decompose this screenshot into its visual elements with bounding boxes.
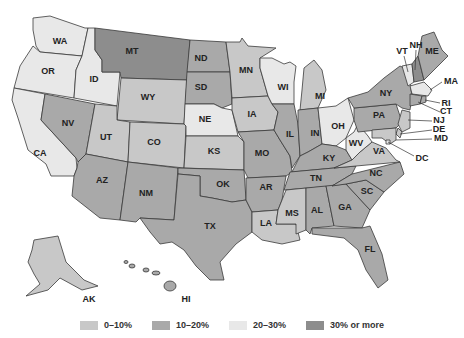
label-CO: CO — [147, 137, 161, 147]
label-IL: IL — [286, 129, 295, 139]
state-MD[interactable] — [372, 128, 396, 144]
label-NH: NH — [410, 40, 423, 50]
label-TX: TX — [204, 221, 216, 231]
legend-item-20-30: 20–30% — [229, 320, 286, 330]
state-AK[interactable] — [26, 236, 98, 296]
label-IN: IN — [311, 128, 320, 138]
legend-swatch-30-plus — [306, 321, 324, 330]
state-MT[interactable] — [95, 28, 190, 80]
label-KY: KY — [323, 153, 336, 163]
label-IA: IA — [248, 109, 258, 119]
label-SD: SD — [195, 82, 208, 92]
state-ND[interactable] — [187, 40, 230, 72]
legend-item-10-20: 10–20% — [152, 320, 209, 330]
label-GA: GA — [338, 202, 352, 212]
label-VT: VT — [396, 46, 408, 56]
label-MI: MI — [315, 91, 325, 101]
legend-swatch-20-30 — [229, 321, 247, 330]
legend-item-0-10: 0–10% — [80, 320, 132, 330]
label-NE: NE — [199, 114, 212, 124]
label-LA: LA — [260, 218, 272, 228]
legend-label: 30% or more — [330, 320, 384, 330]
label-ME: ME — [425, 46, 439, 56]
label-FL: FL — [365, 244, 376, 254]
legend-swatch-0-10 — [80, 321, 98, 330]
legend-label: 0–10% — [104, 320, 132, 330]
legend-item-30-plus: 30% or more — [306, 320, 384, 330]
label-OK: OK — [216, 179, 230, 189]
label-HI: HI — [182, 294, 191, 304]
state-SD[interactable] — [185, 72, 232, 108]
label-AK: AK — [83, 294, 96, 304]
label-WA: WA — [53, 36, 68, 46]
us-map: WA OR CA ID NV MT WY UT AZ CO NM ND SD N… — [0, 0, 464, 338]
label-MD: MD — [434, 133, 448, 143]
label-UT: UT — [100, 132, 112, 142]
label-CA: CA — [34, 148, 47, 158]
state-MI[interactable] — [300, 60, 326, 110]
label-NV: NV — [62, 118, 75, 128]
label-AR: AR — [260, 182, 273, 192]
label-SC: SC — [361, 186, 374, 196]
legend-label: 10–20% — [176, 320, 209, 330]
label-PA: PA — [373, 110, 385, 120]
label-TN: TN — [310, 173, 322, 183]
label-VA: VA — [373, 146, 385, 156]
label-MA: MA — [444, 76, 458, 86]
label-AZ: AZ — [96, 175, 108, 185]
label-OR: OR — [41, 66, 55, 76]
state-MA[interactable] — [410, 82, 432, 96]
label-MO: MO — [255, 148, 270, 158]
label-KS: KS — [208, 146, 221, 156]
legend: 0–10% 10–20% 20–30% 30% or more — [0, 316, 464, 334]
label-ND: ND — [195, 53, 208, 63]
state-NJ[interactable] — [398, 110, 410, 132]
label-OH: OH — [331, 121, 345, 131]
label-NC: NC — [370, 168, 383, 178]
label-ID: ID — [90, 74, 100, 84]
label-NY: NY — [380, 88, 393, 98]
label-AL: AL — [311, 205, 323, 215]
state-FL[interactable] — [312, 226, 388, 288]
state-AZ[interactable] — [72, 154, 128, 220]
state-HI[interactable] — [124, 261, 176, 292]
label-MT: MT — [126, 46, 139, 56]
label-WV: WV — [349, 138, 364, 148]
label-WY: WY — [141, 92, 156, 102]
legend-label: 20–30% — [253, 320, 286, 330]
label-MS: MS — [285, 208, 299, 218]
label-WI: WI — [278, 82, 289, 92]
label-MN: MN — [239, 65, 253, 75]
label-NM: NM — [139, 188, 153, 198]
label-DC: DC — [416, 153, 429, 163]
legend-swatch-10-20 — [152, 321, 170, 330]
